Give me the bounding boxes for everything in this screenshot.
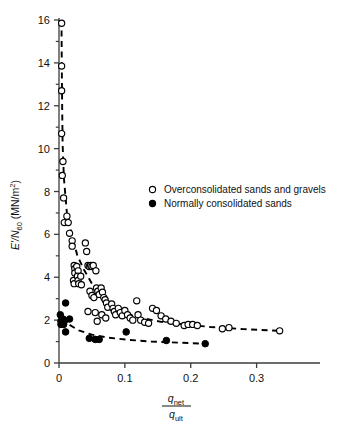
y-axis-title-units-close: ) xyxy=(9,180,21,184)
data-point-open-circle xyxy=(61,195,67,201)
data-point-open-circle xyxy=(85,308,91,314)
y-axis-tick-label: 6 xyxy=(44,228,50,240)
data-point-open-circle xyxy=(194,322,200,328)
data-point-open-circle xyxy=(59,131,65,137)
data-point-open-circle xyxy=(130,317,136,323)
y-axis-title-units: (MN/m xyxy=(9,187,21,222)
data-point-filled-circle xyxy=(62,329,69,336)
data-point-open-circle xyxy=(66,230,72,236)
data-point-open-circle xyxy=(78,273,84,279)
data-point-open-circle xyxy=(82,240,88,246)
figure-container: 0246810121416 00.10.20.3 Overconsolidate… xyxy=(0,0,347,436)
scatter-plot: 0246810121416 00.10.20.3 Overconsolidate… xyxy=(0,0,347,436)
data-point-filled-circle xyxy=(96,336,103,343)
y-axis-tick-label: 4 xyxy=(44,271,50,283)
data-point-open-circle xyxy=(219,326,225,332)
y-axis-title-sub: 60 xyxy=(15,222,24,230)
data-point-open-circle xyxy=(94,318,100,324)
data-point-open-circle xyxy=(64,213,70,219)
data-point-filled-circle xyxy=(66,316,73,323)
data-point-open-circle xyxy=(78,282,84,288)
data-point-open-circle xyxy=(153,307,159,313)
x-axis-tick-label: 0.2 xyxy=(183,372,198,384)
data-point-open-circle xyxy=(59,172,65,178)
data-point-filled-circle xyxy=(62,300,69,307)
x-axis-tick-label: 0.1 xyxy=(117,372,132,384)
y-axis-tick-label: 0 xyxy=(44,357,50,369)
x-axis-title-numerator-sub: net xyxy=(174,398,185,407)
x-axis-title-denominator-sub: ult xyxy=(175,414,184,423)
plot-background xyxy=(0,0,347,436)
x-axis-tick-label: 0.3 xyxy=(249,372,264,384)
data-point-filled-circle xyxy=(123,329,130,336)
data-point-open-circle xyxy=(59,88,65,94)
data-point-open-circle xyxy=(103,315,109,321)
data-point-open-circle xyxy=(93,268,99,274)
y-axis-tick-label: 16 xyxy=(38,14,50,26)
data-point-filled-circle xyxy=(202,340,209,347)
legend-label-overconsolidated: Overconsolidated sands and gravels xyxy=(164,184,326,195)
y-axis-tick-label: 10 xyxy=(38,143,50,155)
legend-label-normally-consolidated: Normally consolidated sands xyxy=(164,198,292,209)
y-axis-tick-label: 8 xyxy=(44,186,50,198)
data-point-open-circle xyxy=(173,320,179,326)
y-axis-tick-label: 12 xyxy=(38,100,50,112)
data-point-open-circle xyxy=(59,63,65,69)
data-point-open-circle xyxy=(65,219,71,225)
data-point-open-circle xyxy=(60,158,66,164)
data-point-open-circle xyxy=(92,310,98,316)
data-point-open-circle xyxy=(84,248,90,254)
legend-marker-filled-circle xyxy=(149,200,155,206)
data-point-open-circle xyxy=(69,243,75,249)
y-axis-tick-label: 14 xyxy=(38,57,50,69)
data-point-open-circle xyxy=(59,20,65,26)
data-point-open-circle xyxy=(277,328,283,334)
data-point-open-circle xyxy=(145,320,151,326)
data-point-filled-circle xyxy=(163,337,170,344)
y-axis-title-main: E'/N xyxy=(9,230,21,250)
data-point-open-circle xyxy=(134,298,140,304)
x-axis-tick-label: 0 xyxy=(56,372,62,384)
y-axis-tick-label: 2 xyxy=(44,314,50,326)
data-point-open-circle xyxy=(226,325,232,331)
